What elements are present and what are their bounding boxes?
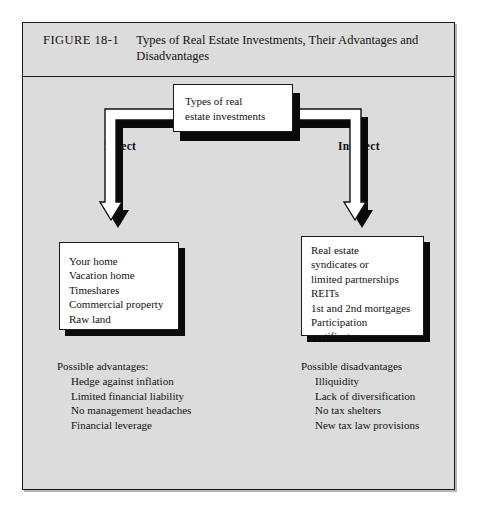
figure-title: Types of Real Estate Investments, Their … <box>136 33 426 64</box>
bracket-shadow <box>107 117 373 228</box>
advantages-list: Hedge against inflation Limited financia… <box>71 374 191 433</box>
indirect-investments-list: Real estate syndicates or limited partne… <box>311 243 410 344</box>
diagram-canvas: Direct Indirect Types of real estate inv… <box>23 78 454 489</box>
branch-label-direct: Direct <box>104 140 136 152</box>
disadvantages-heading: Possible disadvantages <box>301 359 419 374</box>
root-box-text: Types of real estate investments <box>185 94 265 124</box>
indirect-investments-box: Real estate syndicates or limited partne… <box>301 236 424 336</box>
figure-frame: FIGURE 18-1 Types of Real Estate Investm… <box>22 22 455 490</box>
disadvantages-note: Possible disadvantages Illiquidity Lack … <box>301 359 419 433</box>
root-box: Types of real estate investments <box>173 84 293 132</box>
figure-number: FIGURE 18-1 <box>43 33 119 48</box>
direct-investments-box: Your home Vacation home Timeshares Comme… <box>59 242 179 330</box>
figure-header: FIGURE 18-1 Types of Real Estate Investm… <box>23 23 454 77</box>
advantages-note: Possible advantages: Hedge against infla… <box>57 359 191 433</box>
branch-label-indirect: Indirect <box>338 140 380 152</box>
disadvantages-list: Illiquidity Lack of diversification No t… <box>315 374 419 433</box>
advantages-heading: Possible advantages: <box>57 359 191 374</box>
direct-investments-list: Your home Vacation home Timeshares Comme… <box>69 254 163 326</box>
